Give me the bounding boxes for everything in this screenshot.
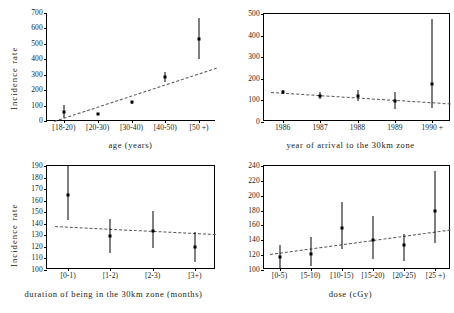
y-tick-label: 190 xyxy=(31,162,43,170)
x-tick-label: 1987 xyxy=(312,124,327,132)
x-axis-title-age: age (years) xyxy=(46,141,215,150)
x-tick-label: [2-3) xyxy=(145,272,161,280)
x-tick-label: [3+) xyxy=(188,272,201,280)
y-tick xyxy=(261,270,264,271)
y-tick xyxy=(261,79,264,80)
plot-area-year-of-arrival: 010020030040050019861987198819891990 + xyxy=(263,13,450,121)
y-tick-label: 300 xyxy=(248,53,260,61)
x-tick-label: [15-20) xyxy=(361,272,384,280)
panel-year-of-arrival: 010020030040050019861987198819891990 + y… xyxy=(227,0,454,157)
y-axis-title-duration: Incidence rate xyxy=(10,204,19,267)
x-tick-label: [18-20) xyxy=(52,124,75,132)
x-tick-label: [1-2) xyxy=(103,272,119,280)
x-tick-label: [10-15) xyxy=(330,272,353,280)
trend-line xyxy=(271,92,451,104)
y-tick xyxy=(44,258,47,259)
y-tick-label: 160 xyxy=(31,197,43,205)
data-point xyxy=(67,193,70,196)
y-tick xyxy=(44,13,47,14)
y-tick xyxy=(44,247,47,248)
data-point xyxy=(372,238,375,241)
x-tick-label: [0-1) xyxy=(60,272,76,280)
y-tick xyxy=(261,122,264,123)
y-tick-label: 140 xyxy=(248,237,260,245)
trend-line xyxy=(54,68,217,122)
y-tick-label: 200 xyxy=(248,75,260,83)
x-tick-label: [30-40) xyxy=(120,124,143,132)
y-tick-label: 100 xyxy=(248,266,260,274)
y-tick xyxy=(261,255,264,256)
y-tick-label: 500 xyxy=(31,40,43,48)
data-point xyxy=(96,113,99,116)
y-tick-label: 140 xyxy=(31,220,43,228)
x-axis-title-dose: dose (cGy) xyxy=(247,290,454,299)
y-tick-label: 100 xyxy=(31,266,43,274)
data-point xyxy=(393,100,396,103)
y-tick-label: 700 xyxy=(31,9,43,17)
y-tick-label: 220 xyxy=(248,177,260,185)
data-point xyxy=(151,229,154,232)
data-point xyxy=(198,38,201,41)
y-axis-title-age: Incidence rate xyxy=(10,47,19,110)
y-tick-label: 150 xyxy=(31,208,43,216)
y-tick xyxy=(44,178,47,179)
y-tick xyxy=(261,211,264,212)
x-tick-label: [20-25) xyxy=(393,272,416,280)
data-point xyxy=(278,255,281,258)
y-tick-label: 500 xyxy=(248,10,260,18)
x-tick-label: 1988 xyxy=(350,124,365,132)
x-axis-title-year-of-arrival: year of arrival to the 30km zone xyxy=(247,141,454,150)
data-point xyxy=(403,244,406,247)
x-tick-label: [5-10) xyxy=(301,272,320,280)
y-tick xyxy=(44,212,47,213)
error-bar xyxy=(432,19,433,108)
data-point xyxy=(130,101,133,104)
y-tick xyxy=(261,181,264,182)
y-tick xyxy=(261,240,264,241)
x-tick-label: [0-5) xyxy=(272,272,288,280)
data-point xyxy=(431,82,434,85)
y-tick xyxy=(44,106,47,107)
y-tick xyxy=(261,225,264,226)
y-tick-label: 180 xyxy=(31,174,43,182)
x-tick-label: 1989 xyxy=(387,124,402,132)
panel-age: Incidence rate 0100200300400500600700[18… xyxy=(0,0,227,157)
data-point xyxy=(356,95,359,98)
y-tick xyxy=(44,189,47,190)
y-tick-label: 240 xyxy=(248,162,260,170)
y-tick-label: 180 xyxy=(248,207,260,215)
x-tick-label: 1986 xyxy=(275,124,290,132)
x-tick-label: [50 +) xyxy=(189,124,208,132)
data-point xyxy=(109,235,112,238)
x-tick-label: [20-30) xyxy=(86,124,109,132)
y-tick xyxy=(261,36,264,37)
y-tick xyxy=(44,59,47,60)
y-tick-label: 300 xyxy=(31,71,43,79)
y-tick xyxy=(44,75,47,76)
data-point xyxy=(309,252,312,255)
y-tick xyxy=(44,235,47,236)
y-tick xyxy=(261,14,264,15)
data-point xyxy=(434,210,437,213)
y-tick xyxy=(44,201,47,202)
y-tick xyxy=(44,166,47,167)
y-tick-label: 130 xyxy=(31,232,43,240)
data-point xyxy=(193,245,196,248)
y-tick-label: 170 xyxy=(31,185,43,193)
y-tick xyxy=(261,196,264,197)
y-tick xyxy=(44,270,47,271)
data-point xyxy=(281,90,284,93)
y-tick-label: 0 xyxy=(39,117,43,125)
y-tick-label: 200 xyxy=(31,86,43,94)
y-tick-label: 120 xyxy=(248,251,260,259)
data-point xyxy=(164,76,167,79)
y-tick-label: 120 xyxy=(31,243,43,251)
plot-area-age: 0100200300400500600700[18-20)[20-30)[30-… xyxy=(46,13,215,121)
x-tick-label: [40-50) xyxy=(154,124,177,132)
panel-dose: 100120140160180200220240[0-5)[5-10)[10-1… xyxy=(227,157,454,313)
y-tick-label: 400 xyxy=(248,32,260,40)
y-tick-label: 200 xyxy=(248,192,260,200)
y-tick-label: 100 xyxy=(31,102,43,110)
trend-line xyxy=(55,226,216,235)
four-panel-error-bar-figure: Incidence rate 0100200300400500600700[18… xyxy=(0,0,454,313)
